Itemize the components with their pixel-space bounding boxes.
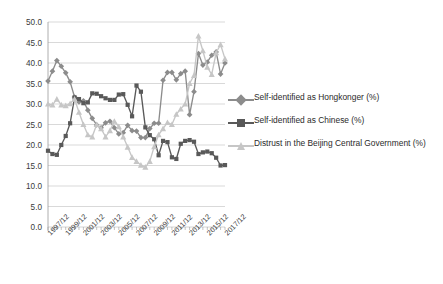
chart-legend: Self-identified as Hongkonger (%) Self-i…: [228, 92, 434, 161]
legend-key-hongkonger: [228, 93, 254, 106]
svg-text:25.0: 25.0: [26, 121, 42, 130]
svg-text:40.0: 40.0: [26, 59, 42, 68]
svg-text:20.0: 20.0: [26, 141, 42, 150]
legend-label-hongkonger: Self-identified as Hongkonger (%): [254, 92, 379, 103]
legend-key-chinese: [228, 116, 254, 129]
legend-item-hongkonger: Self-identified as Hongkonger (%): [228, 92, 434, 106]
svg-text:0.0: 0.0: [31, 223, 43, 232]
svg-text:30.0: 30.0: [26, 100, 42, 109]
svg-text:5.0: 5.0: [31, 203, 43, 212]
legend-item-distrust: Distrust in the Beijing Central Governme…: [228, 138, 434, 152]
svg-text:15.0: 15.0: [26, 162, 42, 171]
chart-container: 0.05.010.015.020.025.030.035.040.045.050…: [0, 0, 443, 284]
svg-text:45.0: 45.0: [26, 39, 42, 48]
svg-text:35.0: 35.0: [26, 80, 42, 89]
svg-text:10.0: 10.0: [26, 182, 42, 191]
legend-label-chinese: Self-identified as Chinese (%): [254, 115, 364, 126]
corner-artifact: [427, 16, 436, 26]
legend-item-chinese: Self-identified as Chinese (%): [228, 115, 434, 129]
legend-label-distrust: Distrust in the Beijing Central Governme…: [254, 138, 426, 149]
legend-key-distrust: [228, 139, 254, 152]
svg-text:50.0: 50.0: [26, 18, 42, 27]
